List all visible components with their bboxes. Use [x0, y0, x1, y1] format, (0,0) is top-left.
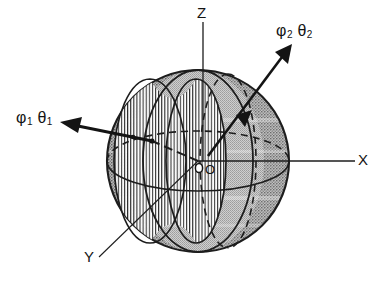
ray1-node-a — [149, 138, 154, 143]
origin-label: O — [205, 163, 215, 176]
sphere-diagram-svg — [0, 0, 378, 286]
z-axis-label: Z — [197, 5, 206, 20]
ray1-node-b — [131, 135, 136, 140]
ray1-theta-subscript: 1 — [47, 116, 53, 127]
ray2-theta-symbol: θ — [297, 22, 306, 39]
caption-strip — [0, 277, 378, 286]
origin-marker — [195, 163, 202, 172]
figure-canvas: φ1θ1 φ2θ2 Z X Y O — [0, 0, 378, 286]
ray2-phi-subscript: 2 — [287, 29, 293, 40]
ray2-phi-symbol: φ — [276, 22, 287, 39]
ray1-label: φ1θ1 — [16, 110, 52, 127]
y-axis-label: Y — [84, 249, 94, 264]
ray2-label: φ2θ2 — [276, 23, 312, 40]
ray1-theta-symbol: θ — [37, 109, 46, 126]
x-axis-label: X — [358, 152, 368, 167]
ray2-theta-subscript: 2 — [307, 29, 313, 40]
ray1-arrowhead — [60, 117, 82, 133]
ray1-phi-symbol: φ — [16, 109, 27, 126]
ray1-phi-subscript: 1 — [27, 116, 33, 127]
